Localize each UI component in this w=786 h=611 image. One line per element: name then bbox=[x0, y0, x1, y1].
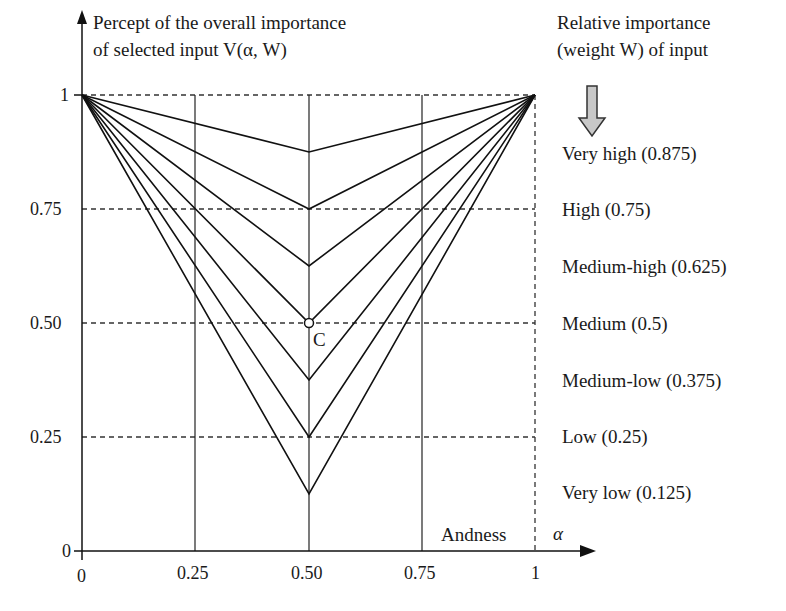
x-tick-0: 0 bbox=[77, 567, 86, 585]
y-axis-arrow-icon bbox=[77, 10, 87, 24]
x-tick-1: 1 bbox=[531, 564, 540, 582]
y-tick-050: 0.50 bbox=[30, 314, 62, 332]
x-axis-arrow-icon bbox=[580, 545, 596, 557]
legend-item-low: Low (0.25) bbox=[562, 426, 647, 448]
legend-item-medium: Medium (0.5) bbox=[562, 313, 668, 335]
down-arrow-icon bbox=[579, 86, 605, 136]
y-tick-075: 0.75 bbox=[30, 200, 62, 218]
x-axis-label: Andness bbox=[441, 525, 506, 544]
y-tick-1: 1 bbox=[60, 86, 69, 104]
legend-title-line2: (weight W) of input bbox=[557, 40, 708, 59]
point-c-marker bbox=[305, 319, 314, 328]
x-axis-symbol: α bbox=[553, 524, 563, 543]
legend-item-medium-low: Medium-low (0.375) bbox=[562, 370, 721, 392]
y-axis-label-line1: Percept of the overall importance bbox=[93, 13, 346, 32]
legend-item-very-high: Very high (0.875) bbox=[562, 143, 697, 165]
y-tick-0: 0 bbox=[62, 542, 71, 560]
legend-item-high: High (0.75) bbox=[562, 199, 651, 221]
chart-canvas bbox=[0, 0, 786, 611]
y-tick-025: 0.25 bbox=[30, 428, 62, 446]
x-tick-075: 0.75 bbox=[404, 564, 436, 582]
legend-item-very-low: Very low (0.125) bbox=[562, 482, 691, 504]
y-axis-label-line2: of selected input V(α, W) bbox=[93, 40, 287, 59]
x-tick-025: 0.25 bbox=[177, 564, 209, 582]
point-c-label: C bbox=[313, 330, 326, 349]
x-tick-050: 0.50 bbox=[291, 564, 323, 582]
legend-title-line1: Relative importance bbox=[557, 13, 711, 32]
legend-item-medium-high: Medium-high (0.625) bbox=[562, 256, 727, 278]
